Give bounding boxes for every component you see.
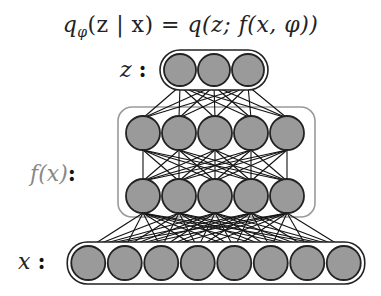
x-node bbox=[181, 246, 215, 280]
x-node bbox=[71, 246, 105, 280]
fx-bottom-node bbox=[162, 179, 196, 213]
fx-top-node bbox=[126, 116, 160, 150]
edge bbox=[248, 86, 287, 118]
fx-bottom-node bbox=[234, 179, 268, 213]
fx-top-node bbox=[162, 116, 196, 150]
fx-bottom-node bbox=[270, 179, 304, 213]
x-node bbox=[217, 246, 251, 280]
edge bbox=[143, 86, 180, 118]
x-node bbox=[327, 246, 361, 280]
x-node bbox=[254, 246, 288, 280]
neural-network-diagram bbox=[0, 0, 381, 296]
z-node bbox=[164, 54, 196, 86]
fx-top-node bbox=[198, 116, 232, 150]
x-node bbox=[290, 246, 324, 280]
fx-top-node bbox=[234, 116, 268, 150]
fx-bottom-node bbox=[198, 179, 232, 213]
fx-bottom-node bbox=[126, 179, 160, 213]
z-node bbox=[198, 54, 230, 86]
x-node bbox=[144, 246, 178, 280]
z-node bbox=[232, 54, 264, 86]
edge bbox=[179, 86, 180, 118]
fx-top-node bbox=[270, 116, 304, 150]
x-node bbox=[108, 246, 142, 280]
